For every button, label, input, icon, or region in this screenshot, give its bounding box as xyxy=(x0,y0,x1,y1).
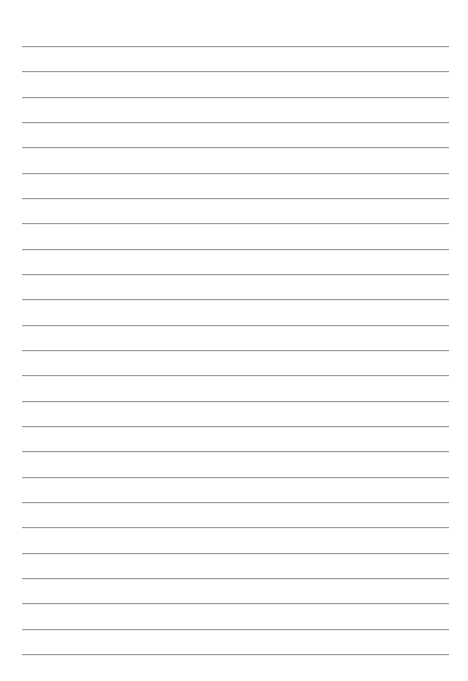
lined-paper-page xyxy=(0,0,468,681)
ruled-line xyxy=(22,147,449,148)
ruled-line xyxy=(22,249,449,250)
ruled-line xyxy=(22,325,449,326)
ruled-line xyxy=(22,71,449,72)
ruled-line xyxy=(22,603,449,604)
ruled-line xyxy=(22,46,449,47)
ruled-line xyxy=(22,299,449,300)
ruled-line xyxy=(22,401,449,402)
ruled-line xyxy=(22,97,449,98)
ruled-line xyxy=(22,502,449,503)
ruled-line xyxy=(22,122,449,123)
ruled-line xyxy=(22,527,449,528)
ruled-line xyxy=(22,553,449,554)
ruled-line xyxy=(22,173,449,174)
ruled-line xyxy=(22,578,449,579)
ruled-line xyxy=(22,198,449,199)
ruled-line xyxy=(22,629,449,630)
ruled-line xyxy=(22,223,449,224)
ruled-line xyxy=(22,451,449,452)
ruled-line xyxy=(22,654,449,655)
ruled-line xyxy=(22,426,449,427)
ruled-line xyxy=(22,375,449,376)
ruled-line xyxy=(22,350,449,351)
ruled-line xyxy=(22,477,449,478)
ruled-line xyxy=(22,274,449,275)
